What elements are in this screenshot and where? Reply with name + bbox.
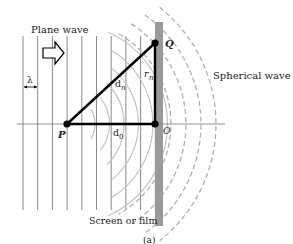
- svg-text:0: 0: [119, 133, 123, 141]
- svg-text:n: n: [121, 84, 126, 92]
- label-Q: Q: [165, 38, 174, 49]
- point-P: [63, 120, 70, 127]
- svg-text:n: n: [149, 74, 154, 82]
- wavelength-label: λ: [27, 75, 33, 85]
- label-P: P: [57, 129, 66, 140]
- label-dn: d n: [115, 78, 126, 92]
- plane-wave-arrow-icon: [43, 42, 64, 64]
- plane-wave-label: Plane wave: [31, 24, 89, 35]
- point-O: [151, 120, 158, 127]
- label-d0: d 0: [113, 127, 123, 141]
- caption: (a): [143, 235, 155, 244]
- wavelength-arrow-right-icon: [34, 86, 37, 89]
- spherical-wave-label: Spherical wave: [213, 70, 291, 81]
- wavelength-arrow-left-icon: [24, 86, 27, 89]
- zone-plate-diagram: Plane wave Spherical wave Screen or film…: [0, 0, 293, 244]
- point-Q: [151, 39, 158, 46]
- label-O: O: [163, 126, 171, 136]
- screen-label: Screen or film: [89, 215, 157, 226]
